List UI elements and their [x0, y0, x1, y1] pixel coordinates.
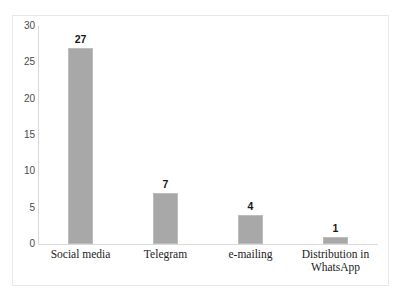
category-label-line: WhatsApp: [311, 261, 360, 273]
x-axis-category-label: Social media: [38, 248, 123, 261]
y-axis-line: [38, 26, 39, 245]
bar: [238, 215, 263, 244]
x-axis-category-label: e-mailing: [208, 248, 293, 261]
y-axis-tick-10: 10: [13, 166, 35, 176]
y-axis-tick-15: 15: [13, 130, 35, 140]
bar: [68, 48, 93, 244]
bar-value-label: 4: [226, 201, 276, 212]
chart-figure: 051015202530 27741 Social mediaTelegrame…: [12, 15, 389, 286]
x-axis-line: [38, 244, 378, 245]
y-axis-tick-25: 25: [13, 57, 35, 67]
y-axis-tick-5: 5: [13, 203, 35, 213]
category-label-line: Social media: [51, 248, 111, 260]
y-axis-tick-label: 30: [15, 21, 35, 31]
y-axis-tick-label: 20: [15, 94, 35, 104]
plot-area: 051015202530 27741 Social mediaTelegrame…: [13, 16, 388, 285]
bar: [323, 237, 348, 244]
bar: [153, 193, 178, 244]
x-axis-category-label: Telegram: [123, 248, 208, 261]
y-axis-tick-label: 10: [15, 166, 35, 176]
bar-value-label: 7: [141, 179, 191, 190]
y-axis-tick-label: 15: [15, 130, 35, 140]
bar-value-label: 1: [311, 223, 361, 234]
y-axis-tick-label: 5: [15, 203, 35, 213]
y-axis-tick-0: 0: [13, 239, 35, 249]
category-label-line: Distribution in: [302, 248, 369, 260]
bar-value-label: 27: [56, 34, 106, 45]
y-axis-tick-label: 0: [15, 239, 35, 249]
category-label-line: Telegram: [144, 248, 187, 260]
y-axis-tick-label: 25: [15, 57, 35, 67]
category-label-line: e-mailing: [228, 248, 272, 260]
y-axis-tick-20: 20: [13, 94, 35, 104]
x-axis-category-label: Distribution inWhatsApp: [293, 248, 378, 274]
y-axis-tick-30: 30: [13, 21, 35, 31]
